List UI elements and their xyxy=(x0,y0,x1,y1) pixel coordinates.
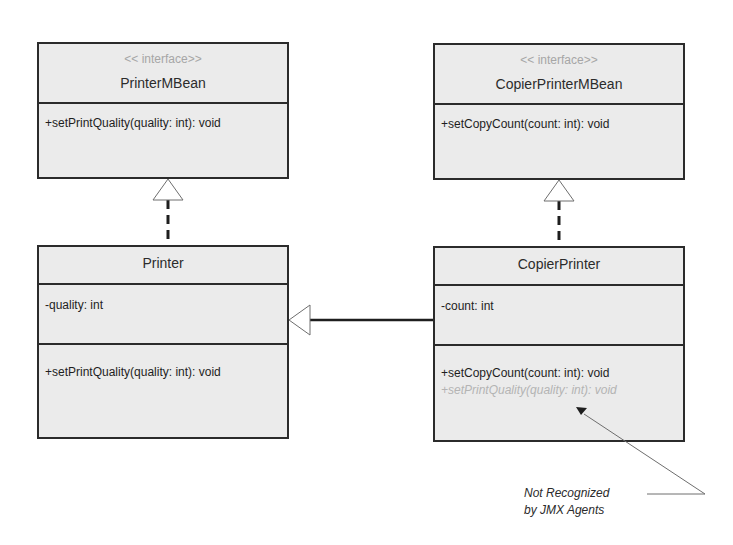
hollow-triangle-arrowhead-icon xyxy=(289,305,310,335)
realization-copier-printer-to-copier-printer-mbean xyxy=(544,180,574,246)
note-line-2: by JMX Agents xyxy=(524,502,609,519)
note-line-1: Not Recognized xyxy=(524,485,609,502)
realization-printer-to-printer-mbean xyxy=(153,179,183,245)
hollow-triangle-arrowhead-icon xyxy=(544,180,574,201)
filled-arrowhead-icon xyxy=(576,407,587,415)
note-annotation: Not Recognized by JMX Agents xyxy=(524,485,609,519)
note-pointer xyxy=(576,407,705,494)
generalization-copier-printer-to-printer xyxy=(289,305,433,335)
relationship-connectors xyxy=(0,0,733,545)
hollow-triangle-arrowhead-icon xyxy=(153,179,183,200)
